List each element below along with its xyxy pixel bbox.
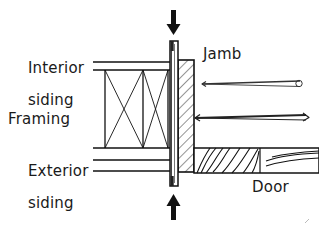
stray-mark xyxy=(305,219,309,223)
label-framing: Framing xyxy=(8,112,70,127)
label-exterior-siding-line1: Exterior xyxy=(28,162,89,180)
weatherstrip-bottom-cap xyxy=(171,176,174,186)
label-exterior-siding-line2: siding xyxy=(28,194,74,212)
label-door: Door xyxy=(252,180,289,195)
label-exterior-siding: Exterior siding xyxy=(8,147,89,227)
jamb-hatched-fill xyxy=(178,60,194,172)
weatherstrip-top-cap xyxy=(171,41,174,51)
jamb-block xyxy=(178,60,194,172)
label-jamb: Jamb xyxy=(203,47,242,62)
label-interior-siding-line1: Interior xyxy=(28,59,84,77)
upper-fastener-screw-icon xyxy=(202,80,302,86)
label-interior-siding-line2: siding xyxy=(28,91,74,109)
exterior-siding-group xyxy=(93,148,178,171)
framing-group xyxy=(105,70,168,148)
interior-siding-group xyxy=(93,62,178,70)
diagram-canvas: Interior siding Framing Exterior siding … xyxy=(0,0,319,230)
weatherstrip-group xyxy=(170,41,178,186)
lower-fastener-screw-icon xyxy=(195,113,309,121)
bottom-arrow-up-icon xyxy=(167,194,181,220)
door-slab-group xyxy=(194,148,319,173)
top-arrow-down-icon xyxy=(167,10,181,35)
